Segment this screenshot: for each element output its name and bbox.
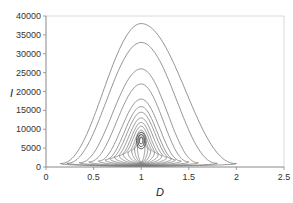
- y-axis-ticks: 0500010000150002000025000300003500040000: [16, 11, 46, 172]
- y-tick-label: 35000: [16, 30, 41, 40]
- y-tick-label: 40000: [16, 11, 41, 21]
- x-axis-ticks: 00.511.522.5: [43, 167, 290, 182]
- orbit-curves: [60, 24, 236, 167]
- y-axis-label: I: [10, 87, 13, 99]
- x-tick-label: 1: [139, 172, 144, 182]
- orbit-curve: [115, 118, 167, 165]
- y-tick-label: 30000: [16, 49, 41, 59]
- orbit-curve: [67, 42, 218, 166]
- x-tick-label: 2: [234, 172, 239, 182]
- x-axis-label: D: [156, 186, 164, 198]
- y-tick-label: 20000: [16, 87, 41, 97]
- y-tick-label: 15000: [16, 105, 41, 115]
- y-tick-label: 25000: [16, 68, 41, 78]
- y-tick-label: 0: [36, 162, 41, 172]
- x-tick-label: 2.5: [278, 172, 291, 182]
- x-tick-label: 1.5: [183, 172, 196, 182]
- orbit-curve: [79, 69, 198, 166]
- x-tick-label: 0.5: [87, 172, 100, 182]
- orbit-curve: [89, 84, 189, 166]
- orbit-curve: [110, 112, 172, 165]
- y-tick-label: 10000: [16, 124, 41, 134]
- y-tick-label: 5000: [21, 143, 41, 153]
- x-tick-label: 0: [43, 172, 48, 182]
- phase-plot: 0500010000150002000025000300003500040000…: [0, 0, 293, 203]
